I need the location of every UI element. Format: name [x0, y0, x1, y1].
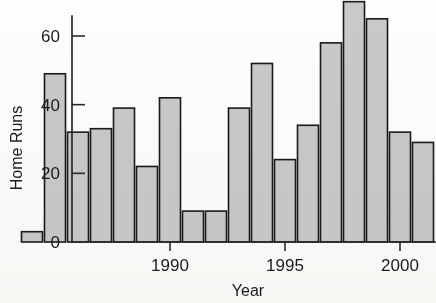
bar-1999 [367, 19, 388, 242]
x-tick-label-1995: 1995 [266, 256, 304, 275]
bar-1989 [137, 166, 158, 242]
x-tick-label-1990: 1990 [151, 256, 189, 275]
bar-1997 [321, 43, 342, 242]
y-tick-label-60: 60 [41, 27, 60, 46]
chart-canvas: 0204060 199019952000 Home Runs Year [0, 0, 436, 303]
bar-1990 [160, 98, 181, 242]
bar-1992 [206, 211, 227, 242]
x-axis-title: Year [232, 282, 265, 299]
home-runs-bar-chart: 0204060 199019952000 Home Runs Year [0, 0, 436, 303]
bar-1996 [298, 125, 319, 242]
y-axis-title: Home Runs [8, 106, 25, 190]
bar-1991 [183, 211, 204, 242]
bar-1998 [344, 2, 365, 242]
y-tick-label-0: 0 [51, 233, 60, 252]
bar-1986 [68, 132, 89, 242]
bar-1993 [229, 108, 250, 242]
x-axis-ticks: 199019952000 [151, 242, 419, 275]
bars-group [22, 2, 434, 242]
bar-1988 [114, 108, 135, 242]
x-tick-label-2000: 2000 [381, 256, 419, 275]
bar-1994 [252, 63, 273, 242]
bar-1987 [91, 129, 112, 242]
bar-1984 [22, 232, 43, 242]
bar-2000 [390, 132, 411, 242]
y-tick-label-20: 20 [41, 164, 60, 183]
bar-2001 [413, 142, 434, 242]
y-tick-label-40: 40 [41, 96, 60, 115]
bar-1995 [275, 160, 296, 242]
